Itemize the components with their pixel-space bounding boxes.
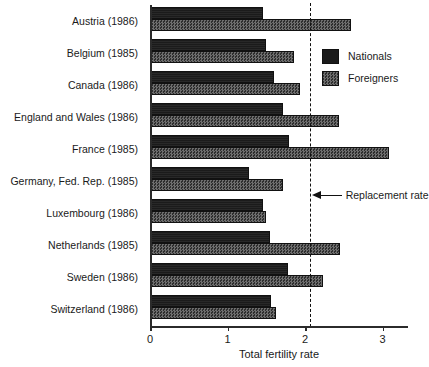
bar-nationals [151, 103, 283, 115]
x-axis-line [150, 326, 408, 328]
bar-nationals [151, 167, 249, 179]
bar-foreigners [151, 19, 351, 31]
bar-nationals [151, 7, 263, 19]
category-label: Luxembourg (1986) [46, 207, 138, 219]
legend-label-foreigners: Foreigners [348, 72, 398, 84]
category-label: France (1985) [72, 143, 138, 155]
x-tick-label: 2 [302, 333, 308, 345]
legend: Nationals Foreigners [322, 45, 398, 89]
x-tick [228, 326, 230, 331]
category-label: Sweden (1986) [67, 271, 138, 283]
bar-nationals [151, 263, 288, 275]
x-tick [305, 326, 307, 331]
legend-label-nationals: Nationals [348, 50, 392, 62]
replacement-rate-annotation: Replacement rate [312, 189, 429, 201]
bar-foreigners [151, 211, 266, 223]
category-label: Switzerland (1986) [50, 303, 138, 315]
replacement-rate-line [310, 3, 311, 327]
x-tick [150, 326, 152, 331]
category-label: Netherlands (1985) [48, 239, 138, 251]
arrow-left-icon [312, 191, 342, 200]
bar-foreigners [151, 275, 323, 287]
legend-swatch-foreigners [322, 71, 339, 86]
legend-item-nationals: Nationals [322, 45, 398, 67]
bar-foreigners [151, 307, 276, 319]
x-tick-label: 1 [224, 333, 230, 345]
bar-nationals [151, 295, 271, 307]
bar-foreigners [151, 243, 340, 255]
bar-nationals [151, 135, 289, 147]
category-label-column: Austria (1986) Belgium (1985) Canada (19… [0, 0, 144, 367]
bar-foreigners [151, 83, 300, 95]
bar-nationals [151, 199, 263, 211]
bar-nationals [151, 231, 270, 243]
legend-swatch-nationals [322, 49, 339, 64]
category-label: Austria (1986) [72, 15, 138, 27]
x-tick-label: 3 [379, 333, 385, 345]
x-tick [383, 326, 385, 331]
bar-nationals [151, 39, 266, 51]
category-label: Canada (1986) [68, 79, 138, 91]
legend-item-foreigners: Foreigners [322, 67, 398, 89]
category-label: England and Wales (1986) [14, 111, 138, 123]
bar-foreigners [151, 179, 283, 191]
x-axis-title: Total fertility rate [150, 348, 408, 360]
y-axis-line [150, 5, 152, 327]
category-label: Germany, Fed. Rep. (1985) [10, 175, 138, 187]
replacement-rate-label: Replacement rate [346, 189, 429, 201]
x-tick-label: 0 [147, 333, 153, 345]
bar-foreigners [151, 147, 389, 159]
bar-foreigners [151, 51, 294, 63]
bar-nationals [151, 71, 274, 83]
category-label: Belgium (1985) [67, 47, 138, 59]
